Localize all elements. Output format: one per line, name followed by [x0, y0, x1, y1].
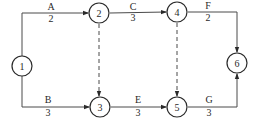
node-4: 4 [167, 2, 187, 22]
activity-e-name: E [135, 94, 141, 105]
activity-b-name: B [45, 94, 52, 105]
activity-g-duration: 3 [207, 107, 212, 118]
activity-c-name: C [130, 1, 137, 12]
network-diagram: A 2 B 3 C 3 E 3 F 2 G 3 1 2 3 4 5 6 [0, 0, 256, 121]
node-5-label: 5 [175, 102, 180, 113]
node-6-label: 6 [235, 58, 240, 69]
activity-a-name: A [47, 1, 55, 12]
activity-a-duration: 2 [49, 13, 54, 24]
activity-e-duration: 3 [136, 107, 141, 118]
activity-b-duration: 3 [46, 107, 51, 118]
activity-f-name: F [205, 0, 211, 11]
node-1: 1 [12, 56, 32, 76]
activity-f-arrow [188, 12, 237, 52]
node-3: 3 [90, 97, 110, 117]
node-4-label: 4 [175, 7, 180, 18]
activity-c-duration: 3 [131, 12, 136, 23]
activity-c-arrow [110, 12, 166, 13]
node-3-label: 3 [98, 102, 103, 113]
activity-b-arrow [22, 76, 89, 107]
node-2: 2 [89, 3, 109, 23]
node-1-label: 1 [20, 61, 25, 72]
node-2-label: 2 [97, 8, 102, 19]
activity-g-name: G [205, 94, 212, 105]
activity-a-arrow [22, 13, 88, 56]
activity-f-duration: 2 [206, 12, 211, 23]
node-6: 6 [227, 53, 247, 73]
node-5: 5 [167, 97, 187, 117]
